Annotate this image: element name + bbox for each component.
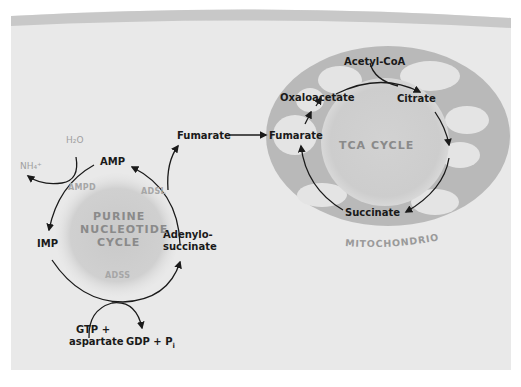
imp-label: IMP [37,238,58,249]
fumarate-label: Fumarate [177,130,231,141]
acetyl-coa-label: Acetyl-CoA [344,56,406,67]
oxaloacetate-label: Oxaloacetate [280,92,355,103]
tca-fumarate-label: Fumarate [269,130,323,141]
citrate-label: Citrate [397,93,436,104]
adss-enzyme-label: ADSS [105,271,130,280]
adenylosuccinate-label-line1: Adenylo- [163,229,213,240]
gtp-label-line2: aspartate [69,336,124,347]
purine-cycle-title-line2: NUCLEOTIDE [80,223,168,236]
succinate-label: Succinate [345,207,400,218]
amp-label: AMP [100,156,125,167]
tca-cycle-title: TCA CYCLE [339,139,414,152]
diagram-canvas: Acetyl-CoA Citrate Oxaloacetate Fumarate… [0,0,521,387]
water-label: H₂O [66,135,83,145]
ammonium-label: NH₄⁺ [20,161,42,171]
purine-cycle-title-line3: CYCLE [97,236,140,249]
adenylosuccinate-label-line2: succinate [163,241,217,252]
purine-cycle-title-line1: PURINE [93,210,145,223]
gtp-label-line1: GTP + [76,324,110,335]
adsl-enzyme-label: ADSL [141,187,166,196]
ampd-enzyme-label: AMPD [68,183,96,192]
